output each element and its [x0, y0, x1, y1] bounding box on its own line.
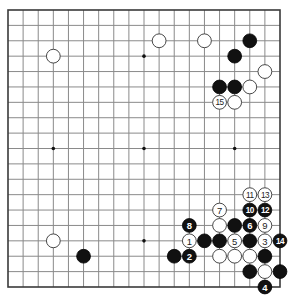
black-stone-move-10: 10 [243, 203, 257, 217]
white-stone-circle [228, 95, 242, 109]
black-stone-move-14: 14 [273, 234, 287, 248]
black-stone [243, 234, 257, 248]
white-stone [46, 49, 60, 63]
black-stone-circle [228, 49, 242, 63]
black-stone-circle [213, 234, 227, 248]
move-number-label: 12 [261, 206, 270, 215]
white-stone-circle [243, 80, 257, 94]
white-stone-circle [46, 49, 60, 63]
white-stone-circle [228, 249, 242, 263]
white-stone-move-9: 9 [258, 219, 272, 233]
black-stone [198, 234, 212, 248]
black-stone-move-4: 4 [258, 280, 272, 294]
white-stone [198, 34, 212, 48]
move-number-label: 1 [187, 236, 192, 247]
black-stone-circle [167, 249, 181, 263]
white-stone [228, 249, 242, 263]
white-stone [228, 95, 242, 109]
black-stone-circle [198, 234, 212, 248]
star-point [142, 54, 146, 58]
white-stone [243, 80, 257, 94]
star-point [142, 147, 146, 151]
move-number-label: 4 [262, 282, 268, 293]
move-number-label: 14 [276, 237, 285, 246]
white-stone-move-11: 11 [243, 188, 257, 202]
white-stone-move-15: 15 [213, 95, 227, 109]
white-stone-move-1: 1 [182, 234, 196, 248]
black-stone-circle [77, 249, 91, 263]
white-stone-move-3: 3 [258, 234, 272, 248]
white-stone-circle [198, 34, 212, 48]
move-number-label: 8 [187, 220, 192, 231]
move-number-label: 7 [217, 205, 222, 216]
black-stone-circle [228, 219, 242, 233]
move-number-label: 5 [232, 236, 237, 247]
white-stone [152, 34, 166, 48]
black-stone-circle [228, 80, 242, 94]
move-number-label: 11 [246, 191, 254, 200]
star-point [142, 239, 146, 243]
white-stone [243, 249, 257, 263]
white-stone-circle [46, 234, 60, 248]
move-number-label: 2 [187, 251, 192, 262]
white-stone-circle [258, 265, 272, 279]
star-point [52, 147, 56, 151]
black-stone [167, 249, 181, 263]
move-number-label: 10 [246, 206, 255, 215]
black-stone-move-2: 2 [182, 249, 196, 263]
black-stone [273, 265, 287, 279]
black-stone-circle [213, 80, 227, 94]
white-stone-circle [152, 34, 166, 48]
white-stone-move-7: 7 [213, 203, 227, 217]
black-stone [243, 34, 257, 48]
white-stone-circle [213, 219, 227, 233]
move-number-label: 9 [262, 220, 267, 231]
black-stone-circle [243, 34, 257, 48]
go-board: 151113710128691531424 [0, 0, 288, 301]
black-stone [258, 249, 272, 263]
white-stone [258, 65, 272, 79]
white-stone-move-13: 13 [258, 188, 272, 202]
move-number-label: 6 [247, 220, 252, 231]
black-stone-move-6: 6 [243, 219, 257, 233]
white-stone-circle [258, 65, 272, 79]
black-stone-move-12: 12 [258, 203, 272, 217]
black-stone-circle [273, 265, 287, 279]
black-stone-circle [258, 249, 272, 263]
black-stone [228, 80, 242, 94]
white-stone [46, 234, 60, 248]
black-stone-circle [243, 265, 257, 279]
white-stone-move-5: 5 [228, 234, 242, 248]
white-stone-circle [213, 249, 227, 263]
white-stone-circle [243, 249, 257, 263]
black-stone [228, 219, 242, 233]
black-stone [77, 249, 91, 263]
star-point [233, 147, 237, 151]
white-stone [258, 265, 272, 279]
move-number-label: 3 [262, 236, 267, 247]
black-stone-circle [243, 234, 257, 248]
white-stone [213, 219, 227, 233]
black-stone-move-8: 8 [182, 219, 196, 233]
black-stone [213, 80, 227, 94]
black-stone [228, 49, 242, 63]
black-stone [213, 234, 227, 248]
move-number-label: 13 [261, 191, 270, 200]
move-number-label: 15 [216, 98, 225, 107]
black-stone [243, 265, 257, 279]
white-stone [213, 249, 227, 263]
